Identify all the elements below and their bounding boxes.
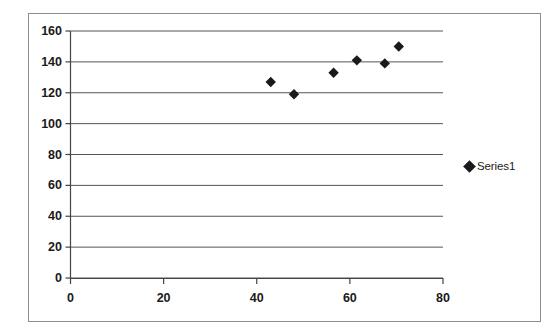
x-tick-label-80: 80 — [436, 291, 450, 305]
legend-entry-label: Series1 — [477, 160, 515, 172]
scatter-chart: 020406080100120140160 020406080 Series1 — [0, 0, 557, 334]
x-tick-label-20: 20 — [157, 291, 171, 305]
data-point-marker — [328, 67, 338, 77]
gridlines-group — [71, 31, 444, 278]
data-point-marker — [266, 77, 276, 87]
diamond-marker-icon — [463, 160, 476, 173]
x-tick-label-0: 0 — [67, 291, 74, 305]
y-tick-label-100: 100 — [24, 117, 62, 131]
data-point-marker — [352, 55, 362, 65]
y-tick-label-140: 140 — [24, 55, 62, 69]
data-point-markers — [266, 41, 404, 99]
data-point-marker — [380, 58, 390, 68]
data-point-marker — [394, 41, 404, 51]
y-axis-ticks — [66, 31, 71, 278]
y-tick-label-120: 120 — [24, 86, 62, 100]
x-tick-label-60: 60 — [343, 291, 357, 305]
y-tick-label-20: 20 — [24, 240, 62, 254]
data-point-marker — [289, 89, 299, 99]
y-tick-label-60: 60 — [24, 178, 62, 192]
y-tick-label-160: 160 — [24, 24, 62, 38]
chart-legend: Series1 — [465, 160, 515, 172]
x-tick-label-40: 40 — [250, 291, 264, 305]
y-tick-label-40: 40 — [24, 209, 62, 223]
y-tick-label-0: 0 — [24, 271, 62, 285]
y-tick-label-80: 80 — [24, 148, 62, 162]
